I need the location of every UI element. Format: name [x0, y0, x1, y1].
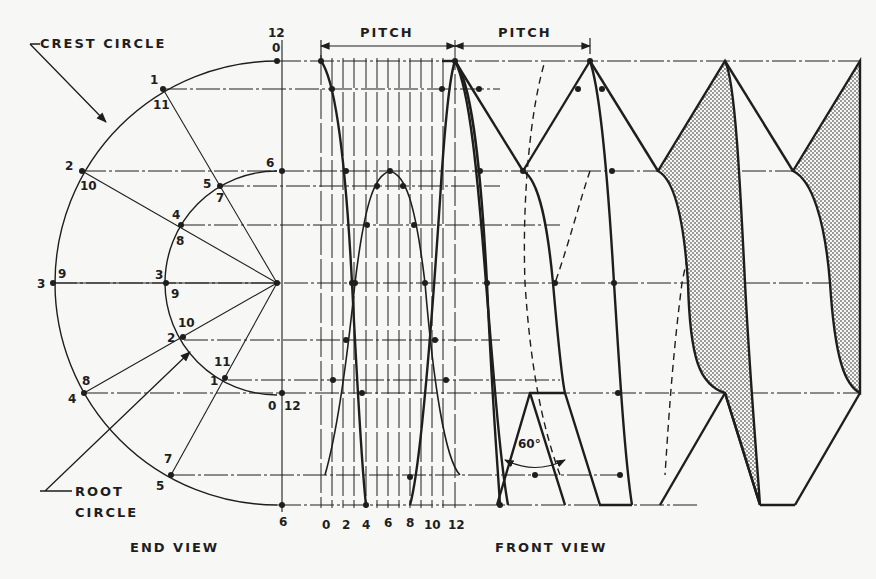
point-label: 7	[164, 452, 172, 466]
division-label: 0	[322, 518, 330, 532]
front-view-caption: FRONT VIEW	[495, 540, 607, 555]
point-label: 10	[80, 179, 97, 193]
angle-arc	[505, 460, 565, 468]
point-label: 5	[156, 479, 164, 493]
pitch-label-1: PITCH	[360, 25, 414, 40]
point-label: 2	[167, 331, 175, 345]
thread-construction-diagram: CREST CIRCLE ROOT CIRCLE END VIEW FRONT …	[0, 0, 876, 579]
point-label: 12	[268, 26, 285, 40]
point-label: 3	[155, 268, 163, 282]
division-label: 6	[384, 516, 392, 530]
division-label: 8	[406, 516, 414, 530]
point-label: 5	[203, 177, 211, 191]
point-label: 8	[82, 374, 90, 388]
point-label: 6	[279, 515, 287, 529]
point-label: 7	[216, 191, 224, 205]
point-label: 0	[268, 399, 276, 413]
shaded-tooth-1	[658, 61, 760, 505]
end-view-caption: END VIEW	[130, 540, 219, 555]
point-label: 9	[171, 287, 179, 301]
root-circle-label-line1: ROOT	[75, 484, 124, 499]
point-label: 1	[150, 73, 158, 87]
division-label: 12	[448, 518, 465, 532]
point-label: 8	[176, 234, 184, 248]
thread-angle-label: 60°	[518, 437, 541, 451]
point-label: 2	[65, 159, 73, 173]
point-label: 3	[37, 277, 45, 291]
point-label: 4	[172, 208, 180, 222]
point-label: 9	[58, 267, 66, 281]
division-label: 2	[342, 518, 350, 532]
shaded-tooth-2	[793, 61, 860, 393]
crest-circle-label: CREST CIRCLE	[40, 36, 166, 51]
point-label: 1	[210, 374, 218, 388]
division-label: 10	[424, 518, 441, 532]
point-label: 10	[178, 316, 195, 330]
point-label: 11	[214, 355, 231, 369]
root-circle-label-line2: CIRCLE	[75, 505, 138, 520]
point-label: 6	[266, 156, 274, 170]
point-label: 0	[272, 41, 280, 55]
pitch-division-labels: 0 2 4 6 8 10 12	[322, 516, 465, 532]
point-label: 4	[68, 392, 76, 406]
pitch-label-2: PITCH	[498, 25, 552, 40]
division-label: 4	[362, 518, 370, 532]
point-label: 12	[284, 399, 301, 413]
point-label: 11	[153, 98, 170, 112]
